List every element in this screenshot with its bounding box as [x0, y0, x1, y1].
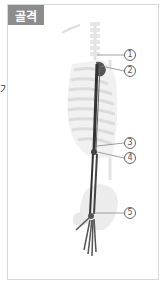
- callout-2: 2: [124, 65, 136, 77]
- callout-1: 1: [124, 49, 136, 61]
- callout-4: 4: [124, 152, 136, 164]
- skeleton-illustration: [0, 0, 164, 286]
- callout-3: 3: [124, 137, 136, 149]
- callout-5: 5: [124, 207, 136, 219]
